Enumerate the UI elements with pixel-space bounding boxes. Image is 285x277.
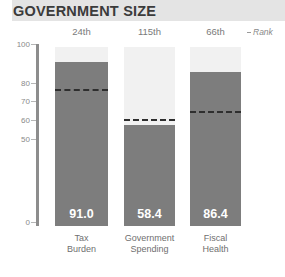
category-label-line-1: Tax (47, 233, 116, 244)
y-tick-mark-50 (31, 139, 36, 140)
y-tick-label-70: 70 (8, 98, 30, 106)
y-tick-mark-80 (31, 83, 36, 84)
bar-value-fiscal-health: 86.4 (190, 207, 241, 221)
average-line-government-spending (124, 119, 175, 121)
y-tick-label-50: 50 (8, 136, 30, 144)
y-tick-label-100: 100 (8, 41, 30, 49)
y-tick-mark-100 (31, 44, 36, 45)
category-label-tax-burden: Tax Burden (47, 233, 116, 255)
y-tick-mark-70 (31, 101, 36, 102)
category-label-line-2: Spending (112, 244, 187, 255)
y-tick-mark-60 (31, 120, 36, 121)
category-label-line-1: Fiscal (182, 233, 249, 244)
chart-card: GOVERNMENT SIZE 24th 115th 66th Rank 100… (0, 0, 285, 277)
category-label-government-spending: Government Spending (112, 233, 187, 255)
category-label-line-1: Government (112, 233, 187, 244)
category-label-line-2: Health (182, 244, 249, 255)
category-label-line-2: Burden (47, 244, 116, 255)
bar-value-tax-burden: 91.0 (55, 207, 108, 221)
bar-value-government-spending: 58.4 (124, 207, 175, 221)
bar-tax-burden[interactable] (55, 62, 108, 226)
bar-fiscal-health[interactable] (190, 72, 241, 226)
y-tick-label-80: 80 (8, 80, 30, 88)
category-label-fiscal-health: Fiscal Health (182, 233, 249, 255)
y-tick-label-0: 0 (8, 219, 30, 227)
y-axis-line (36, 44, 39, 226)
y-tick-mark-0 (31, 222, 36, 223)
average-line-tax-burden (55, 89, 108, 91)
average-line-fiscal-health (190, 111, 241, 113)
y-tick-label-60: 60 (8, 117, 30, 125)
plot-area: 100 80 70 60 50 0 91.0 58.4 86.4 Tax Bur… (0, 0, 285, 277)
